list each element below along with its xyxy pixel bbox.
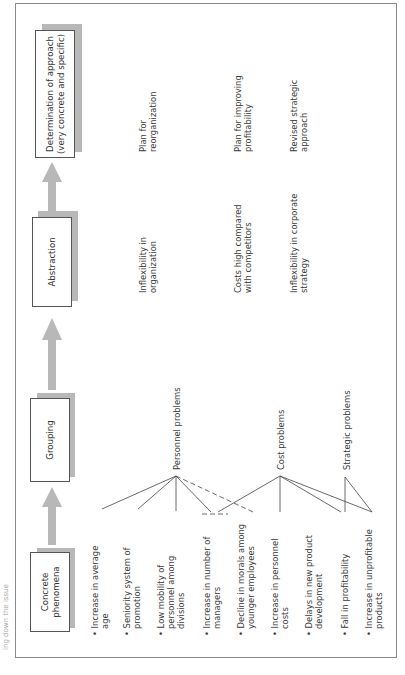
abstraction-line: Inflexibility in xyxy=(138,237,148,293)
phenomenon-line: Increase in average xyxy=(90,546,100,636)
determination-label: Determination of approach (very concrete… xyxy=(45,34,66,154)
abstraction-line: organization xyxy=(148,237,158,293)
concrete-label-line: Concrete xyxy=(40,566,51,617)
abstraction-item: Costs high compared with competitors xyxy=(233,204,253,293)
phenomenon-item: Increase in personnel costs xyxy=(270,538,290,636)
phenomenon-item: Fall in profitability xyxy=(340,554,350,636)
phenomenon-line: Seniority system of xyxy=(122,547,132,636)
determination-box: Determination of approach (very concrete… xyxy=(35,30,75,158)
phenomenon-line: Increase in personnel xyxy=(270,538,280,636)
abstraction-item: Inflexibility in corporate strategy xyxy=(289,194,309,293)
abstraction-item: Inflexibility in organization xyxy=(138,237,158,293)
group-label-personnel: Personnel problems xyxy=(172,387,182,470)
phenomenon-item: Low mobility of personnel among division… xyxy=(156,556,186,636)
abstraction-line: Inflexibility in corporate xyxy=(289,194,299,293)
grouping-label: Grouping xyxy=(45,420,56,459)
phenomenon-line: Delays in new product xyxy=(304,535,314,636)
group-label-strategic: Strategic problems xyxy=(342,390,352,470)
determination-item: Plan for improving profitability xyxy=(233,75,253,152)
determination-line: approach xyxy=(299,80,309,152)
determination-label-line: (very concrete and specific) xyxy=(55,34,66,154)
phenomenon-line: products xyxy=(374,529,384,636)
phenomenon-line: Low mobility of xyxy=(156,556,166,636)
phenomenon-item: Increase in average age xyxy=(90,546,110,636)
determination-item: Plan for reorganization xyxy=(138,92,158,153)
phenomenon-line: divisions xyxy=(176,556,186,636)
determination-label-line: Determination of approach xyxy=(45,34,56,154)
abstraction-line: Costs high compared xyxy=(233,204,243,293)
determination-line: reorganization xyxy=(148,92,158,153)
phenomenon-line: younger employees xyxy=(246,524,256,636)
concrete-box: Concrete phenomena xyxy=(30,552,70,632)
determination-line: Plan for improving xyxy=(233,75,243,152)
phenomenon-item: Increase in number of managers xyxy=(202,537,222,636)
abstraction-label-line: Abstraction xyxy=(47,237,58,286)
phenomenon-line: Increase in unprofitable xyxy=(364,529,374,636)
concrete-label: Concrete phenomena xyxy=(40,566,61,617)
concrete-label-line: phenomena xyxy=(50,566,61,617)
phenomenon-line: Fall in profitability xyxy=(340,554,350,636)
phenomenon-line: Increase in number of xyxy=(202,537,212,636)
phenomenon-line: age xyxy=(100,546,110,636)
abstraction-box: Abstraction xyxy=(32,217,72,307)
phenomenon-line: personnel among xyxy=(166,556,176,636)
phenomenon-line: managers xyxy=(212,537,222,636)
determination-item: Revised strategic approach xyxy=(289,80,309,152)
phenomenon-item: Increase in unprofitable products xyxy=(364,529,384,636)
determination-line: Revised strategic xyxy=(289,80,299,152)
determination-line: Plan for xyxy=(138,92,148,153)
phenomenon-line: promotion xyxy=(132,547,142,636)
phenomenon-item: Delays in new product development xyxy=(304,535,324,636)
phenomenon-item: Decline in morals among younger employee… xyxy=(236,524,256,636)
abstraction-label: Abstraction xyxy=(47,237,58,286)
grouping-label-line: Grouping xyxy=(45,420,56,459)
determination-line: profitability xyxy=(243,75,253,152)
abstraction-line: with competitors xyxy=(243,204,253,293)
phenomenon-line: development xyxy=(314,535,324,636)
phenomenon-line: costs xyxy=(280,538,290,636)
group-label-cost: Cost problems xyxy=(276,410,286,470)
phenomenon-item: Seniority system of promotion xyxy=(122,547,142,636)
abstraction-line: strategy xyxy=(299,194,309,293)
grouping-box: Grouping xyxy=(30,398,70,482)
phenomenon-line: Decline in morals among xyxy=(236,524,246,636)
